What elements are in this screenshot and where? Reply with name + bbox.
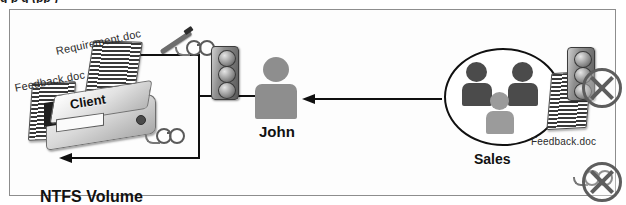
glasses-bridge (197, 44, 201, 46)
person-head (512, 62, 533, 82)
traffic-light-bulb-middle (218, 66, 236, 83)
john-label: John (259, 123, 295, 140)
prohibited-circle-x-icon (582, 162, 622, 202)
person-body (255, 84, 297, 119)
person-head (466, 62, 487, 82)
sales-label: Sales (474, 151, 511, 167)
traffic-light-icon (211, 46, 239, 100)
person-body (486, 111, 514, 134)
traffic-light-bulb-top (218, 50, 236, 67)
diagram-frame: Client (9, 9, 616, 196)
traffic-light-bulb-top (574, 51, 592, 68)
traffic-light-bulb-bottom (218, 82, 236, 99)
glasses-bridge (167, 132, 171, 134)
connector-to-client-volume (70, 157, 200, 159)
diagram-canvas: g p g (pp ) Client (0, 0, 626, 205)
person-icon-john (255, 57, 297, 119)
prohibited-circle-x-icon (582, 68, 622, 108)
connector-sales-to-john (314, 98, 442, 100)
glasses-lens-right (169, 128, 185, 144)
disk-drive-icon: Client (24, 58, 164, 146)
arrowhead-sales-to-john (302, 94, 315, 104)
person-head (263, 57, 289, 82)
person-icon-sales-middle (486, 92, 514, 134)
arrowhead-to-client-volume (59, 153, 72, 163)
disk-drive-indicator (136, 115, 146, 125)
person-head (490, 92, 509, 110)
pen-and-glasses-icon (158, 24, 218, 56)
ntfs-volume-label: NTFS Volume (40, 188, 143, 205)
glasses-temple (175, 47, 190, 56)
feedback-doc-label-right: Feedback.doc (531, 136, 596, 147)
clipped-caption-text: g p g (pp ) (0, 0, 626, 3)
connector-vertical-trunk (198, 54, 200, 159)
